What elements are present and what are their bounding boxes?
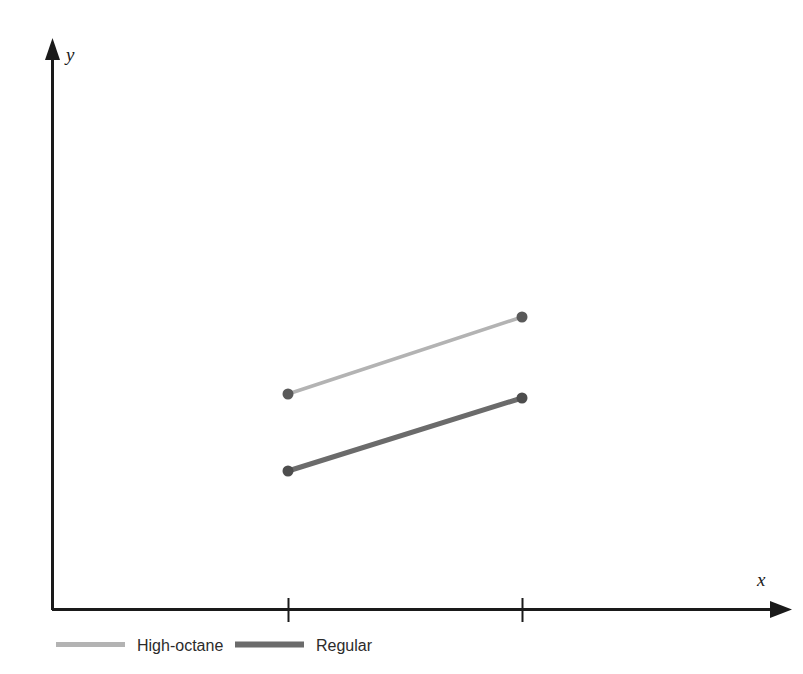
- series-high-octane-point-2: [517, 312, 528, 323]
- chart-canvas: y x High-octane: [0, 0, 803, 674]
- series-regular-point-2: [517, 393, 528, 404]
- chart-figure: y x High-octane: [0, 0, 803, 674]
- series-high-octane-point-1: [283, 389, 294, 400]
- y-axis-label: y: [64, 44, 75, 65]
- legend-label-regular: Regular: [316, 637, 373, 654]
- x-axis-label: x: [756, 569, 766, 590]
- series-regular-point-1: [283, 466, 294, 477]
- chart-background: [0, 0, 803, 674]
- legend-label-high-octane: High-octane: [137, 637, 223, 654]
